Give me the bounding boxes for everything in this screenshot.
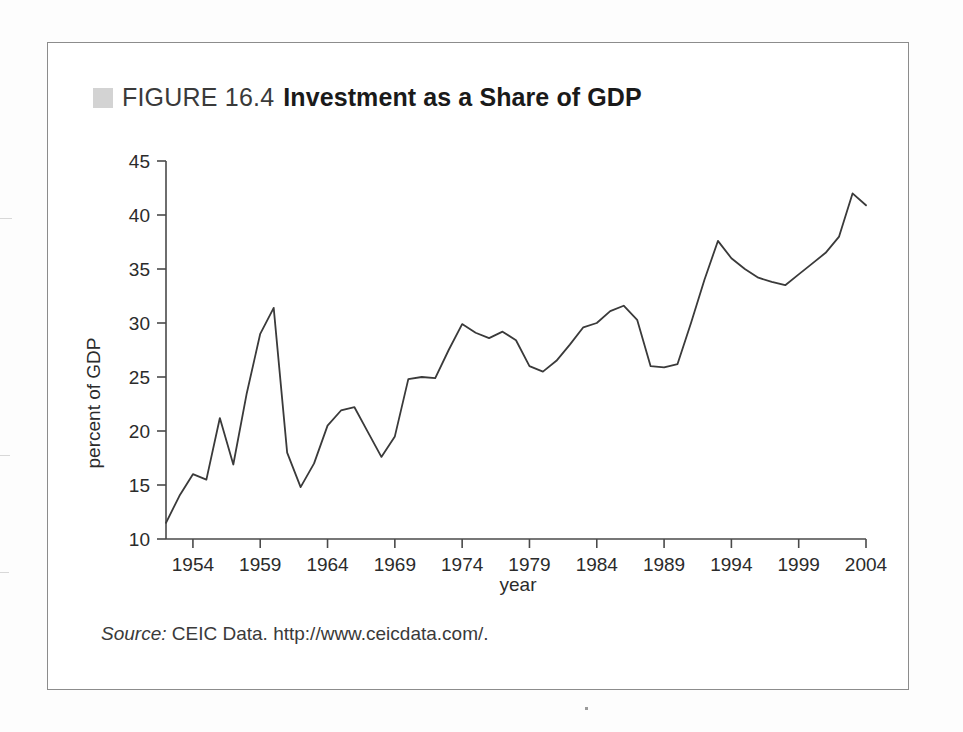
y-axis-tick-label: 40 bbox=[129, 205, 150, 226]
y-axis-tick-label: 10 bbox=[129, 529, 150, 550]
x-axis-tick-label: 1974 bbox=[441, 554, 484, 575]
x-axis-title: year bbox=[500, 574, 538, 595]
chart-plot-area: 1015202530354045 19541959196419691974197… bbox=[48, 43, 910, 691]
x-axis-tick-label: 1994 bbox=[710, 554, 753, 575]
x-axis-tick-label: 1969 bbox=[374, 554, 416, 575]
data-line bbox=[166, 193, 866, 522]
figure-frame: FIGURE 16.4 Investment as a Share of GDP… bbox=[47, 42, 909, 690]
x-axis-tick-label: 1984 bbox=[576, 554, 619, 575]
scan-artifact-mark bbox=[0, 572, 9, 573]
source-label: Source: bbox=[101, 623, 166, 644]
x-axis-tick-label: 1999 bbox=[778, 554, 820, 575]
x-axis-tick-label: 1954 bbox=[172, 554, 215, 575]
y-axis-tick-label: 30 bbox=[129, 313, 150, 334]
y-axis-tick-label: 35 bbox=[129, 259, 150, 280]
data-series-group bbox=[166, 193, 866, 522]
scan-artifact-mark bbox=[0, 455, 10, 456]
y-axis-tick-label: 25 bbox=[129, 367, 150, 388]
x-axis-tick-label: 2004 bbox=[845, 554, 888, 575]
scan-artifact-dot bbox=[585, 707, 588, 710]
x-axis-tick-label: 1979 bbox=[508, 554, 550, 575]
x-axis-tick-label: 1989 bbox=[643, 554, 685, 575]
y-axis-tick-label: 20 bbox=[129, 421, 150, 442]
source-text: CEIC Data. http://www.ceicdata.com/. bbox=[166, 623, 488, 644]
scan-artifact-mark bbox=[0, 218, 12, 219]
x-axis: 1954195919641969197419791984198919941999… bbox=[166, 539, 888, 575]
y-axis-tick-label: 45 bbox=[129, 151, 150, 172]
line-chart-svg: 1015202530354045 19541959196419691974197… bbox=[48, 43, 910, 691]
y-axis: 1015202530354045 bbox=[129, 151, 166, 550]
x-axis-tick-label: 1964 bbox=[306, 554, 349, 575]
y-axis-tick-label: 15 bbox=[129, 475, 150, 496]
x-axis-tick-label: 1959 bbox=[239, 554, 281, 575]
source-note: Source: CEIC Data. http://www.ceicdata.c… bbox=[101, 623, 489, 645]
y-axis-title: percent of GDP bbox=[83, 338, 104, 469]
